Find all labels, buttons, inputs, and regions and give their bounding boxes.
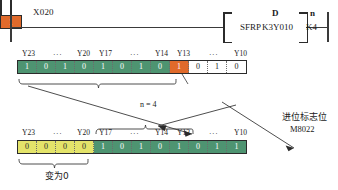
before-shift-cell-6: 1 <box>132 61 151 73</box>
top-label-y10: Y10 <box>234 49 247 58</box>
after-shift-cell-4: 1 <box>94 141 113 153</box>
top-label-y17: Y17 <box>99 49 112 58</box>
shift-arrow-line-secondary <box>158 105 236 126</box>
after-shift-cell-10: 1 <box>208 141 227 153</box>
before-shift-cell-3: 0 <box>75 61 94 73</box>
before-shift-cell-7: 0 <box>151 61 170 73</box>
instruction-mnemonic-sfrp: SFRP <box>240 23 261 32</box>
bottom-label-ellipsis-2: ··· <box>130 129 139 138</box>
bottom-label-y13: Y13 <box>177 128 190 137</box>
shift-arrow-line-main <box>28 86 192 134</box>
zero-cells-brace <box>19 159 88 168</box>
before-shift-cell-1: 0 <box>37 61 56 73</box>
top-label-y13: Y13 <box>177 49 190 58</box>
ladder-rung-wire <box>10 27 224 28</box>
ladder-right-power-rail <box>327 12 329 42</box>
after-shift-cell-2: 0 <box>56 141 75 153</box>
after-shift-cell-3: 0 <box>75 141 94 153</box>
bottom-label-ellipsis-1: ··· <box>53 129 62 138</box>
bottom-label-ellipsis-3: ··· <box>209 129 218 138</box>
bottom-row-bit-labels: Y23 ··· Y20 Y17 ··· Y14 Y13 ··· Y10 <box>0 128 338 138</box>
before-shift-cell-4: 1 <box>94 61 113 73</box>
after-shift-cell-0: 0 <box>18 141 37 153</box>
before-shift-cell-5: 0 <box>113 61 132 73</box>
after-shift-cell-8: 1 <box>170 141 189 153</box>
bottom-label-y17: Y17 <box>99 128 112 137</box>
carry-arrow-head <box>286 146 294 152</box>
after-shift-cell-9: 0 <box>189 141 208 153</box>
shift-amount-annotation: n = 4 <box>140 100 157 109</box>
carry-flag-title: 进位标志位 <box>282 113 327 122</box>
bottom-label-y14: Y14 <box>155 128 168 137</box>
operand-d-header: D <box>272 9 279 18</box>
top-row-brace <box>19 79 176 88</box>
bottom-label-y23: Y23 <box>22 128 35 137</box>
operand-n-value: K4 <box>306 23 317 32</box>
bottom-label-y10: Y10 <box>234 128 247 137</box>
normally-open-contact-icon <box>0 0 14 15</box>
top-row-bit-labels: Y23 ··· Y20 Y17 ··· Y14 Y13 ··· Y10 <box>0 49 338 59</box>
before-shift-cell-9: 0 <box>189 61 208 73</box>
operand-d-value: K3Y010 <box>262 23 293 32</box>
orange-bit-connector <box>182 74 188 84</box>
before-shift-cell-2: 1 <box>56 61 75 73</box>
before-shift-cell-0: 1 <box>18 61 37 73</box>
top-label-y14: Y14 <box>155 49 168 58</box>
instruction-bracket-left <box>223 12 232 43</box>
top-label-ellipsis-3: ··· <box>209 50 218 59</box>
becomes-zero-annotation: 变为0 <box>45 172 69 181</box>
top-label-y23: Y23 <box>22 49 35 58</box>
before-shift-cell-11: 0 <box>227 61 246 73</box>
top-label-y20: Y20 <box>77 49 90 58</box>
after-shift-cell-5: 0 <box>113 141 132 153</box>
carry-flag-device-id: M8022 <box>290 125 315 134</box>
bit-row-after-shift: 000010101011 <box>17 140 247 154</box>
after-shift-cell-1: 0 <box>37 141 56 153</box>
top-label-ellipsis-2: ··· <box>130 50 139 59</box>
contact-label-x020: X020 <box>33 8 54 17</box>
bottom-label-y20: Y20 <box>77 128 90 137</box>
bit-row-before-shift: 101010101010 <box>17 60 247 74</box>
plc-shift-instruction-diagram: X020 SFRP D K3Y010 n K4 Y23 ··· Y20 Y17 … <box>0 0 338 190</box>
after-shift-cell-6: 1 <box>132 141 151 153</box>
before-shift-cell-8: 1 <box>170 61 189 73</box>
after-shift-cell-7: 0 <box>151 141 170 153</box>
top-label-ellipsis-1: ··· <box>53 50 62 59</box>
operand-n-header: n <box>310 9 315 18</box>
before-shift-cell-10: 1 <box>208 61 227 73</box>
after-shift-cell-11: 1 <box>227 141 246 153</box>
